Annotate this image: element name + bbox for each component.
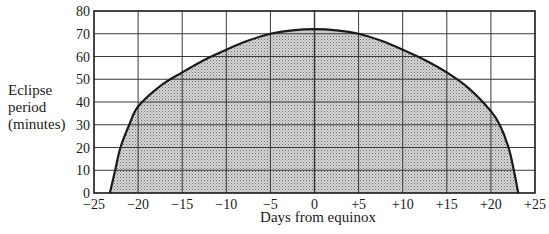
x-tick-label: +15: [436, 197, 458, 212]
y-tick-labels: 01020304050607080: [76, 4, 90, 201]
x-tick-label: +10: [392, 197, 414, 212]
eclipse-period-chart: 01020304050607080 −25−20−15−10−50+5+10+1…: [0, 0, 549, 234]
x-tick-label: +20: [480, 197, 502, 212]
y-tick-label: 30: [76, 118, 90, 133]
x-tick-label: −20: [127, 197, 149, 212]
x-tick-label: −25: [83, 197, 105, 212]
y-tick-label: 50: [76, 72, 90, 87]
y-tick-label: 60: [76, 50, 90, 65]
y-tick-label: 10: [76, 163, 90, 178]
x-tick-label: +25: [524, 197, 546, 212]
x-axis-title: Days from equinox: [260, 209, 376, 225]
y-tick-label: 40: [76, 95, 90, 110]
x-tick-label: −10: [215, 197, 237, 212]
y-tick-label: 20: [76, 141, 90, 156]
y-tick-label: 70: [76, 27, 90, 42]
x-tick-label: −15: [171, 197, 193, 212]
y-tick-label: 80: [76, 4, 90, 19]
